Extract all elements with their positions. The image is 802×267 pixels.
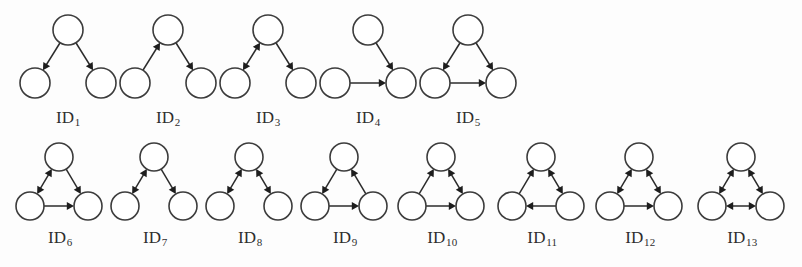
node-left: [206, 192, 234, 220]
motif-label-subscript: 3: [275, 116, 281, 128]
motif-graph-9: [295, 138, 395, 233]
motif-label-prefix: ID: [256, 108, 274, 127]
arrowhead: [647, 202, 654, 210]
node-right: [86, 68, 116, 98]
node-top: [353, 15, 383, 45]
node-top: [53, 15, 83, 45]
node-top: [253, 15, 283, 45]
motif-12: ID12: [590, 138, 690, 258]
motif-graph-7: [105, 138, 205, 233]
motif-10: ID10: [392, 138, 492, 258]
motif-label-prefix: ID: [333, 228, 351, 247]
motif-label-8: ID8: [200, 228, 300, 248]
node-left: [420, 68, 450, 98]
edge-layer: [227, 169, 271, 194]
motif-label-subscript: 4: [375, 116, 381, 128]
arrowhead: [379, 79, 386, 87]
node-right: [186, 68, 216, 98]
motif-4: ID4: [318, 8, 418, 128]
arrowhead: [67, 202, 74, 210]
arrowhead: [352, 202, 359, 210]
edge-line: [143, 45, 158, 70]
node-layer: [320, 15, 416, 98]
node-layer: [398, 143, 484, 220]
node-right: [456, 192, 484, 220]
motif-label-13: ID13: [692, 228, 792, 248]
motif-graph-5: [418, 8, 518, 103]
node-top: [330, 143, 358, 171]
motif-label-subscript: 6: [67, 236, 73, 248]
node-layer: [220, 15, 316, 98]
node-top: [453, 15, 483, 45]
node-right: [74, 192, 102, 220]
edge-line: [476, 43, 491, 68]
node-top: [427, 143, 455, 171]
motif-label-prefix: ID: [143, 228, 161, 247]
node-left: [120, 68, 150, 98]
arrowhead: [726, 202, 733, 210]
arrowhead: [749, 202, 756, 210]
node-left: [111, 192, 139, 220]
motif-label-7: ID7: [105, 228, 205, 248]
motif-5: ID5: [418, 8, 518, 128]
motif-label-subscript: 7: [162, 236, 168, 248]
motif-label-prefix: ID: [48, 228, 66, 247]
node-top: [45, 143, 73, 171]
motif-graph-4: [318, 8, 418, 103]
edge-layer: [132, 169, 176, 194]
node-left: [698, 192, 726, 220]
motif-11: ID11: [492, 138, 592, 258]
node-right: [169, 192, 197, 220]
node-layer: [498, 143, 584, 220]
motif-label-10: ID10: [392, 228, 492, 248]
node-left: [498, 192, 526, 220]
edge-layer: [143, 43, 193, 71]
motif-label-subscript: 1: [75, 116, 81, 128]
node-top: [140, 143, 168, 171]
node-layer: [698, 143, 784, 220]
edge-layer: [43, 43, 93, 71]
motif-label-subscript: 13: [746, 236, 757, 248]
node-left: [596, 192, 624, 220]
edge-line: [376, 43, 391, 68]
node-left: [398, 192, 426, 220]
motif-graph-11: [492, 138, 592, 233]
motif-label-prefix: ID: [56, 108, 74, 127]
motif-label-subscript: 9: [352, 236, 358, 248]
motif-1: ID1: [18, 8, 118, 128]
edge-line: [276, 43, 291, 68]
node-left: [301, 192, 329, 220]
motif-graph-3: [218, 8, 318, 103]
node-right: [556, 192, 584, 220]
motif-label-4: ID4: [318, 108, 418, 128]
motif-label-prefix: ID: [238, 228, 256, 247]
motif-3: ID3: [218, 8, 318, 128]
arrowhead: [449, 202, 456, 210]
arrowhead: [526, 202, 533, 210]
motif-label-subscript: 12: [644, 236, 655, 248]
motif-label-prefix: ID: [456, 108, 474, 127]
arrowhead: [479, 79, 486, 87]
node-layer: [120, 15, 216, 98]
motif-graph-13: [692, 138, 792, 233]
motif-label-subscript: 5: [475, 116, 481, 128]
motif-label-subscript: 11: [546, 236, 557, 248]
motif-label-prefix: ID: [427, 228, 445, 247]
node-right: [756, 192, 784, 220]
motif-label-6: ID6: [10, 228, 110, 248]
node-layer: [111, 143, 197, 220]
node-right: [486, 68, 516, 98]
motif-label-prefix: ID: [527, 228, 545, 247]
motif-label-subscript: 2: [175, 116, 181, 128]
motif-graph-1: [18, 8, 118, 103]
node-left: [220, 68, 250, 98]
motif-label-subscript: 8: [257, 236, 263, 248]
node-top: [527, 143, 555, 171]
node-top: [153, 15, 183, 45]
motif-label-prefix: ID: [356, 108, 374, 127]
node-top: [235, 143, 263, 171]
motif-6: ID6: [10, 138, 110, 258]
motif-label-9: ID9: [295, 228, 395, 248]
edge-line: [45, 43, 60, 68]
motif-graph-6: [10, 138, 110, 233]
